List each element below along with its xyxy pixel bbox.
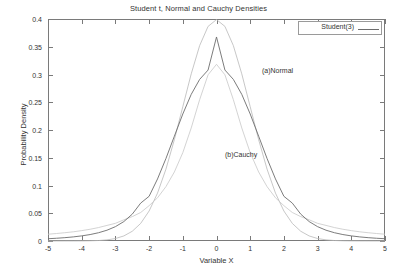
chart-figure: Student t, Normal and Cauchy Densities 0… <box>0 0 397 274</box>
curve-a-normal <box>48 20 385 241</box>
y-tick-label: 0.4 <box>2 16 42 23</box>
x-tick-label: -4 <box>69 245 95 252</box>
curve-student-3 <box>48 37 385 239</box>
x-tick-label: 0 <box>204 245 230 252</box>
annotation-label: (a)Normal <box>262 67 293 74</box>
y-tick-label: 0.05 <box>2 210 42 217</box>
x-tick-label: 5 <box>372 245 397 252</box>
y-tick-label: 0.35 <box>2 43 42 50</box>
annotation-label: (b)Cauchy <box>225 151 257 158</box>
density-curves <box>48 20 385 241</box>
legend-entry-label: Student(3) <box>302 23 354 30</box>
chart-canvas <box>0 0 397 274</box>
x-tick-label: 2 <box>271 245 297 252</box>
x-tick-label: 3 <box>305 245 331 252</box>
x-tick-label: -2 <box>136 245 162 252</box>
x-axis-title: Variable X <box>48 256 385 265</box>
y-axis-title: Probability Density <box>19 60 28 210</box>
x-tick-label: -1 <box>170 245 196 252</box>
x-tick-label: -3 <box>102 245 128 252</box>
x-tick-label: 1 <box>237 245 263 252</box>
x-tick-label: -5 <box>35 245 61 252</box>
axis-ticks <box>48 19 386 242</box>
x-tick-label: 4 <box>338 245 364 252</box>
legend-line-sample <box>358 29 379 30</box>
y-tick-label: 0 <box>2 238 42 245</box>
curve-b-cauchy <box>48 64 385 234</box>
